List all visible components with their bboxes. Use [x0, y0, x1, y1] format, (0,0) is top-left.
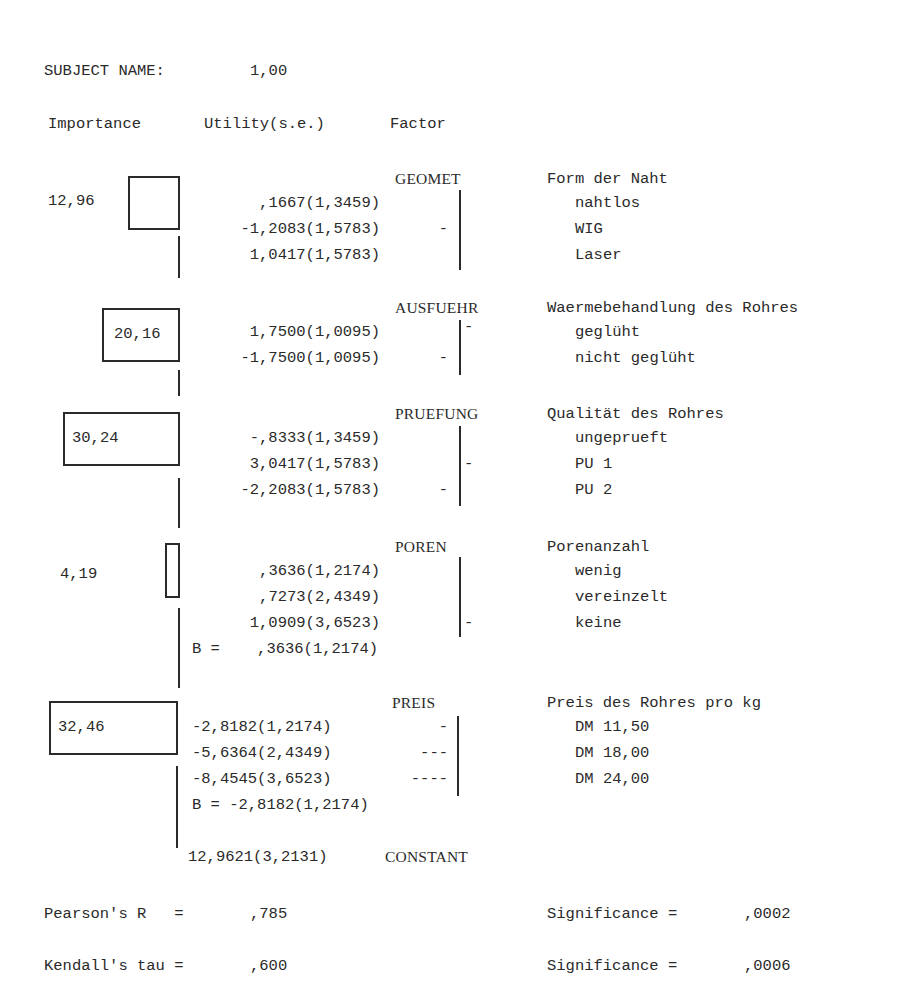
- utility-bar-left: -: [390, 718, 448, 736]
- utility-zero-axis: [459, 426, 461, 506]
- level-label: PU 1: [575, 455, 612, 473]
- utility-value: -1,2083(1,5783): [196, 220, 380, 238]
- utility-value: -8,4545(3,6523): [192, 770, 332, 788]
- level-label: wenig: [575, 562, 622, 580]
- pearson-significance-value: ,0002: [744, 905, 791, 923]
- factor-code: PRUEFUNG: [395, 405, 478, 423]
- utility-zero-axis: [459, 320, 461, 375]
- utility-value: -,8333(1,3459): [196, 429, 380, 447]
- b-coefficient: B = -2,8182(1,2174): [192, 796, 369, 814]
- level-label: Laser: [575, 246, 622, 264]
- importance-bar: 32,46: [49, 701, 178, 755]
- factor-description: Form der Naht: [547, 170, 668, 188]
- importance-axis-line: [178, 236, 180, 278]
- level-label: DM 11,50: [575, 718, 649, 736]
- importance-axis-line: [176, 766, 178, 848]
- level-label: keine: [575, 614, 622, 632]
- utility-value: ,3636(1,2174): [196, 562, 380, 580]
- utility-bar-left: -: [398, 481, 448, 499]
- level-label: ungeprueft: [575, 429, 668, 447]
- level-label: WIG: [575, 220, 603, 238]
- kendall-significance-value: ,0006: [744, 957, 791, 975]
- utility-value: 1,0417(1,5783): [196, 246, 380, 264]
- utility-value: -1,7500(1,0095): [196, 349, 380, 367]
- level-label: PU 2: [575, 481, 612, 499]
- utility-zero-axis: [459, 190, 461, 270]
- factor-code: AUSFUEHR: [395, 299, 478, 317]
- level-label: vereinzelt: [575, 588, 668, 606]
- utility-bar-left: -: [398, 220, 448, 238]
- utility-value: ,7273(2,4349): [196, 588, 380, 606]
- utility-bar-left: ---: [390, 744, 448, 762]
- importance-value: 12,96: [48, 192, 95, 210]
- level-label: DM 24,00: [575, 770, 649, 788]
- utility-zero-axis: [459, 557, 461, 637]
- level-label: nahtlos: [575, 194, 640, 212]
- importance-value: 32,46: [58, 718, 105, 736]
- factor-description: Waermebehandlung des Rohres: [547, 299, 798, 317]
- utility-value: ,1667(1,3459): [196, 194, 380, 212]
- factor-description: Preis des Rohres pro kg: [547, 694, 761, 712]
- kendall-value: ,600: [250, 957, 287, 975]
- factor-description: Qualität des Rohres: [547, 405, 724, 423]
- constant-value: 12,9621(3,2131): [188, 848, 328, 866]
- importance-axis-line: [178, 478, 180, 528]
- subject-name-value: 1,00: [250, 62, 287, 80]
- importance-axis-line: [178, 370, 180, 396]
- column-header-importance: Importance: [48, 115, 141, 133]
- importance-bar: 30,24: [63, 412, 180, 466]
- factor-code: PREIS: [392, 694, 435, 712]
- utility-bar-right: -: [464, 318, 473, 336]
- importance-bar: [128, 176, 180, 230]
- importance-bar: 20,16: [102, 308, 180, 362]
- utility-value: -5,6364(2,4349): [192, 744, 332, 762]
- factor-description: Porenanzahl: [547, 538, 649, 556]
- constant-label: CONSTANT: [385, 848, 468, 866]
- utility-value: 3,0417(1,5783): [196, 455, 380, 473]
- subject-name-label: SUBJECT NAME:: [44, 62, 165, 80]
- importance-value: 20,16: [114, 325, 161, 343]
- kendall-significance-label: Significance =: [547, 957, 677, 975]
- utility-value: 1,7500(1,0095): [196, 323, 380, 341]
- importance-value: 4,19: [60, 565, 97, 583]
- utility-bar-right: -: [464, 455, 473, 473]
- utility-value: -2,8182(1,2174): [192, 718, 332, 736]
- utility-bar-right: -: [464, 614, 473, 632]
- factor-code: POREN: [395, 538, 447, 556]
- level-label: nicht geglüht: [575, 349, 696, 367]
- level-label: geglüht: [575, 323, 640, 341]
- column-header-utility: Utility(s.e.): [204, 115, 325, 133]
- utility-zero-axis: [457, 716, 459, 796]
- factor-code: GEOMET: [395, 170, 461, 188]
- level-label: DM 18,00: [575, 744, 649, 762]
- b-coefficient: B = ,3636(1,2174): [192, 640, 378, 658]
- importance-bar: [165, 543, 180, 598]
- column-header-factor: Factor: [390, 115, 446, 133]
- importance-axis-line: [178, 608, 180, 688]
- kendall-label: Kendall's tau =: [44, 957, 184, 975]
- utility-bar-left: ----: [390, 770, 448, 788]
- pearson-label: Pearson's R =: [44, 905, 184, 923]
- utility-value: 1,0909(3,6523): [196, 614, 380, 632]
- utility-value: -2,2083(1,5783): [196, 481, 380, 499]
- pearson-significance-label: Significance =: [547, 905, 677, 923]
- utility-bar-left: -: [398, 349, 448, 367]
- importance-value: 30,24: [72, 429, 119, 447]
- pearson-value: ,785: [250, 905, 287, 923]
